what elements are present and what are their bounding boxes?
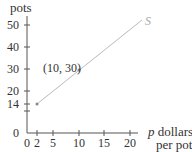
x-axis-title-line2: per pot xyxy=(156,137,192,152)
x-tick-label: 20 xyxy=(124,136,136,150)
y-tick-label: 30 xyxy=(7,62,19,76)
y-tick-label: 0 xyxy=(13,126,19,140)
y-tick-label: 20 xyxy=(7,84,19,98)
point-label: (10, 30) xyxy=(43,61,81,75)
data-point-start xyxy=(36,103,39,106)
y-tick-label: 40 xyxy=(7,40,19,54)
x-axis-variable: p xyxy=(147,124,155,139)
y-tick-label: 50 xyxy=(7,18,19,32)
x-tick-label: 10 xyxy=(73,136,85,150)
y-axis-title: pots xyxy=(10,0,32,15)
supply-chart: 50 40 30 20 14 0 0 2 5 10 15 20 pots p d… xyxy=(0,0,192,152)
x-tick-label: 15 xyxy=(98,136,110,150)
x-tick-label: 0 xyxy=(24,136,30,150)
x-tick-label: 2 xyxy=(34,136,40,150)
x-tick-label: 5 xyxy=(50,136,56,150)
y-tick-label: 14 xyxy=(7,97,19,111)
series-label-s: S xyxy=(145,14,151,28)
